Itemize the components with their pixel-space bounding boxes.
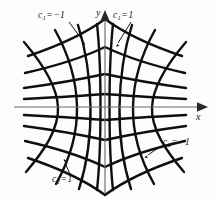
label-c1-pos1: c1=1: [113, 11, 133, 21]
label-c2-neg1-value: −1: [178, 137, 190, 147]
label-c1-neg1-symbol: c: [38, 10, 42, 20]
label-c1-pos1-subscript: 1: [118, 14, 122, 21]
figure-canvas: [0, 0, 215, 199]
label-c1-pos1-symbol: c: [113, 10, 117, 20]
label-c1-neg1-subscript: 1: [43, 14, 47, 21]
x-axis-label: x: [196, 112, 200, 122]
label-c1-pos1-value: 1: [128, 10, 133, 20]
label-c2-neg1-symbol: c: [163, 137, 167, 147]
label-c1-neg1: c1=−1: [38, 11, 65, 21]
label-c2-pos1-subscript: 2: [57, 178, 61, 185]
label-c2-pos1-symbol: c: [52, 174, 56, 184]
hyperbola-figure: y x c1=−1 c1=1 c2=−1 c2=1: [0, 0, 215, 199]
y-axis-arrowhead: [100, 10, 109, 21]
label-c1-neg1-value: −1: [53, 10, 65, 20]
label-c2-pos1: c2=1: [52, 175, 72, 185]
y-axis-label: y: [96, 8, 100, 18]
label-c2-neg1-subscript: 2: [168, 141, 172, 148]
label-c2-neg1: c2=−1: [163, 138, 190, 148]
label-c2-pos1-value: 1: [67, 174, 72, 184]
